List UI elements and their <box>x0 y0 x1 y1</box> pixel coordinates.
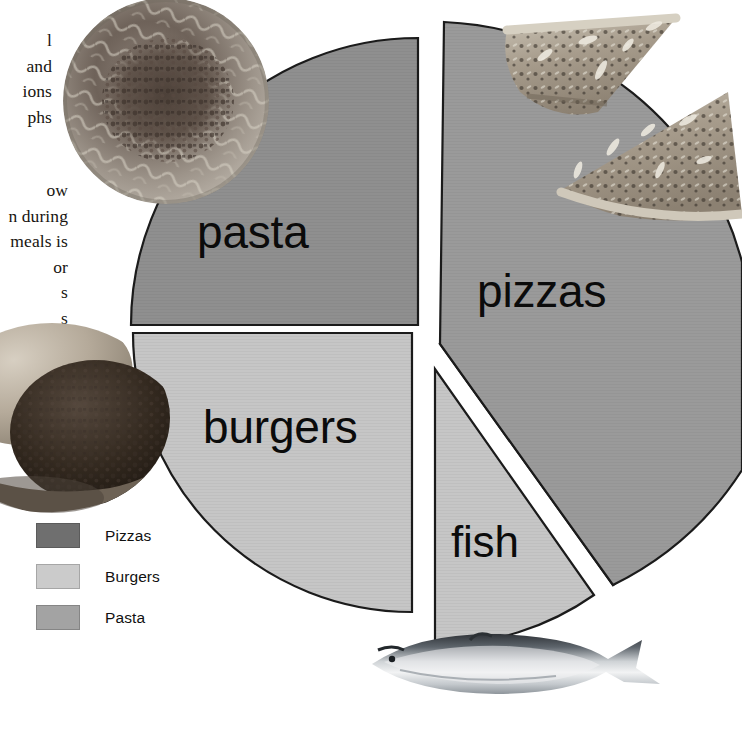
pie-slice-burgers[interactable] <box>133 333 412 612</box>
legend-swatch-burgers <box>36 564 80 589</box>
legend-item-burgers[interactable]: Burgers <box>36 562 160 591</box>
legend-label-pasta: Pasta <box>105 609 145 627</box>
slice-label-pasta: pasta <box>197 205 309 259</box>
legend-item-pasta[interactable]: Pasta <box>36 603 160 632</box>
chart-page: l and ions phs ow n during meals is or s… <box>0 0 742 731</box>
slice-label-pizzas: pizzas <box>477 264 606 318</box>
legend-swatch-pasta <box>36 605 80 630</box>
slice-label-fish: fish <box>451 517 519 567</box>
burger-photo <box>0 299 182 520</box>
legend-label-burgers: Burgers <box>105 568 160 586</box>
chart-legend: Pizzas Burgers Pasta <box>36 521 160 644</box>
legend-label-pizzas: Pizzas <box>105 527 151 545</box>
pasta-bowl-photo <box>63 0 269 204</box>
legend-item-pizzas[interactable]: Pizzas <box>36 521 160 550</box>
slice-label-burgers: burgers <box>203 400 358 454</box>
fish-photo <box>372 634 660 694</box>
legend-swatch-pizzas <box>36 523 80 548</box>
